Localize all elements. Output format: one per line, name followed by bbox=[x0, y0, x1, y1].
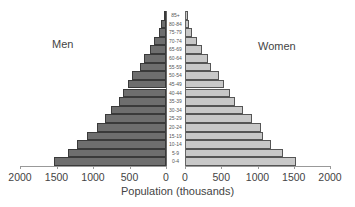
tick-mark bbox=[258, 166, 259, 169]
age-label: 70-74 bbox=[166, 37, 185, 46]
men-label: Men bbox=[52, 38, 73, 50]
bar-men-65-69 bbox=[150, 45, 166, 54]
bar-women-30-34 bbox=[185, 106, 243, 115]
tick-mark bbox=[166, 166, 167, 169]
age-label: 65-69 bbox=[166, 45, 185, 54]
x-tick-label: 500 bbox=[121, 171, 139, 183]
center-axis-left bbox=[166, 11, 167, 167]
age-label: 80-84 bbox=[166, 20, 185, 29]
center-axis-right bbox=[185, 11, 186, 167]
age-label: 35-39 bbox=[166, 97, 185, 106]
bar-women-5-9 bbox=[185, 149, 283, 158]
bar-women-20-24 bbox=[185, 123, 261, 132]
bar-women-35-39 bbox=[185, 97, 235, 106]
bar-men-75-79 bbox=[159, 28, 166, 37]
bar-women-45-49 bbox=[185, 80, 224, 89]
tick-mark bbox=[93, 166, 94, 169]
tick-mark bbox=[185, 166, 186, 169]
age-label: 0-4 bbox=[166, 157, 185, 166]
population-pyramid-chart: Men Women 85+80-8475-7970-7465-6960-6455… bbox=[0, 0, 355, 207]
tick-mark bbox=[294, 166, 295, 169]
age-label: 60-64 bbox=[166, 54, 185, 63]
age-label: 40-44 bbox=[166, 89, 185, 98]
bar-men-20-24 bbox=[97, 123, 166, 132]
bar-men-60-64 bbox=[144, 54, 166, 63]
age-label: 75-79 bbox=[166, 28, 185, 37]
bar-men-25-29 bbox=[105, 114, 166, 123]
x-tick-label: 1000 bbox=[246, 171, 269, 183]
bar-women-60-64 bbox=[185, 54, 208, 63]
age-label: 10-14 bbox=[166, 140, 185, 149]
bar-women-40-44 bbox=[185, 89, 230, 98]
bar-women-70-74 bbox=[185, 37, 197, 46]
age-label: 5-9 bbox=[166, 149, 185, 158]
x-tick-label: 2000 bbox=[318, 171, 341, 183]
bar-women-0-4 bbox=[185, 157, 296, 166]
bar-women-10-14 bbox=[185, 140, 271, 149]
age-label: 20-24 bbox=[166, 123, 185, 132]
age-label: 85+ bbox=[166, 11, 185, 20]
bar-women-50-54 bbox=[185, 71, 219, 80]
bar-men-5-9 bbox=[68, 149, 166, 158]
tick-mark bbox=[330, 166, 331, 169]
tick-mark bbox=[20, 166, 21, 169]
age-label: 45-49 bbox=[166, 80, 185, 89]
bar-men-45-49 bbox=[128, 80, 166, 89]
bar-women-55-59 bbox=[185, 63, 211, 72]
bar-women-15-19 bbox=[185, 132, 263, 141]
women-label: Women bbox=[258, 40, 296, 52]
age-label: 25-29 bbox=[166, 114, 185, 123]
tick-mark bbox=[57, 166, 58, 169]
tick-mark bbox=[130, 166, 131, 169]
bar-men-10-14 bbox=[77, 140, 166, 149]
age-label: 30-34 bbox=[166, 106, 185, 115]
bar-men-55-59 bbox=[140, 63, 166, 72]
bar-women-25-29 bbox=[185, 114, 252, 123]
bar-men-35-39 bbox=[119, 97, 166, 106]
bar-women-65-69 bbox=[185, 45, 202, 54]
x-tick-label: 1500 bbox=[282, 171, 305, 183]
bar-men-0-4 bbox=[54, 157, 166, 166]
x-tick-label: 500 bbox=[212, 171, 230, 183]
x-tick-label: 0 bbox=[182, 171, 188, 183]
bar-men-30-34 bbox=[111, 106, 166, 115]
age-label: 15-19 bbox=[166, 132, 185, 141]
x-tick-label: 1500 bbox=[45, 171, 68, 183]
x-tick-label: 2000 bbox=[8, 171, 31, 183]
tick-mark bbox=[221, 166, 222, 169]
x-axis-label: Population (thousands) bbox=[0, 185, 355, 197]
x-tick-label: 1000 bbox=[81, 171, 104, 183]
bar-men-70-74 bbox=[154, 37, 166, 46]
bar-men-40-44 bbox=[123, 89, 166, 98]
age-label: 50-54 bbox=[166, 71, 185, 80]
bar-women-75-79 bbox=[185, 28, 192, 37]
bar-men-15-19 bbox=[87, 132, 166, 141]
x-tick-label: 0 bbox=[163, 171, 169, 183]
age-label: 55-59 bbox=[166, 63, 185, 72]
bar-men-50-54 bbox=[132, 71, 166, 80]
